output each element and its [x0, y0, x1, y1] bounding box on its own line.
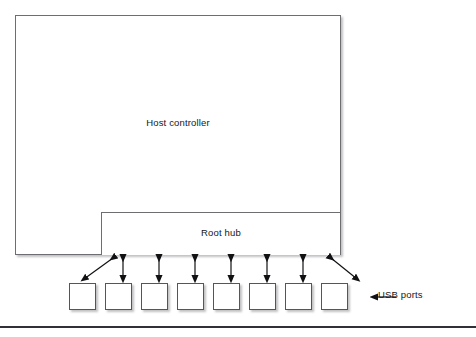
root-hub-block: Root hub [101, 212, 341, 255]
root-hub-label: Root hub [102, 227, 340, 238]
usb-port-box [249, 283, 276, 310]
usb-port-box [321, 283, 348, 310]
usb-ports-callout: USB ports [374, 289, 423, 300]
usb-port-box [213, 283, 240, 310]
usb-ports-row [69, 283, 348, 310]
usb-port-box [141, 283, 168, 310]
usb-port-box [69, 283, 96, 310]
usb-port-box [105, 283, 132, 310]
connector-arrow-1 [84, 258, 113, 279]
usb-ports-callout-label: USB ports [378, 289, 423, 300]
figure-caption [108, 330, 368, 337]
connector-arrow-8 [331, 258, 357, 279]
usb-port-box [177, 283, 204, 310]
footer-divider [0, 326, 476, 328]
host-controller-label: Host controller [16, 117, 340, 128]
usb-architecture-diagram: Host controller Root hub [0, 0, 476, 337]
usb-port-box [285, 283, 312, 310]
